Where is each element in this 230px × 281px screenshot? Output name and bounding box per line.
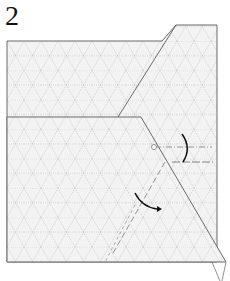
origami-diagram [0, 0, 230, 281]
reference-point [152, 145, 157, 150]
diagram-canvas: 2 [0, 0, 230, 281]
